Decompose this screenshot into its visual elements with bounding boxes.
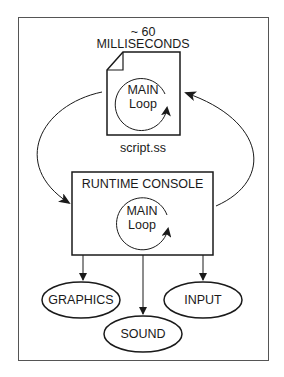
console-loop-label-line1: MAIN [122,205,162,218]
console-loop-label-line2: Loop [122,219,162,232]
script-loop-label-line1: MAIN [123,84,163,97]
sound-label: SOUND [103,328,183,341]
timing-label-unit: MILLISECONDS [83,38,203,51]
game-loop-diagram: ~ 60 MILLISECONDS MAIN Loop script.ss RU… [0,0,284,377]
script-filename: script.ss [103,142,183,155]
input-label: INPUT [163,294,243,307]
script-loop-label-line2: Loop [123,98,163,111]
graphics-label: GRAPHICS [41,294,121,307]
runtime-console-title: RUNTIME CONSOLE [72,178,213,191]
